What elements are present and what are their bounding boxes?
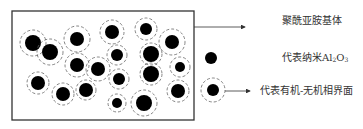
nano-particle-icon [105,25,119,39]
nano-particle-icon [136,95,152,111]
particle-group [20,18,190,116]
nano-particle-icon [140,23,152,35]
nano-particle-icon [111,49,123,61]
nano-label-sub2: 3 [344,56,348,63]
nano-particle-icon [143,66,159,82]
nano-al2o3-label: 代表纳米Al2O3 [282,52,348,66]
nano-particle-icon [175,62,185,72]
nano-particle-icon [91,62,105,76]
nano-particle-icon [42,44,58,60]
nano-label-prefix: 代表纳米Al [282,52,332,63]
matrix-label: 聚酰亚胺基体 [282,15,342,27]
nano-particle-icon [112,98,122,108]
nano-particle-icon [171,84,185,98]
nano-particle-icon [165,35,179,49]
legend-interface-core-icon [207,84,219,96]
nano-particle-icon [31,76,45,90]
interface-label: 代表有机-无机相界面 [260,85,353,97]
nano-particle-icon [70,32,84,46]
nano-particle-icon [79,83,93,97]
legend-nano-particle-icon [205,52,217,64]
nano-particle-icon [25,35,41,51]
nano-particle-icon [113,73,125,85]
nano-particle-icon [70,58,84,72]
nano-particle-icon [143,46,159,62]
nano-particle-icon [56,87,70,101]
